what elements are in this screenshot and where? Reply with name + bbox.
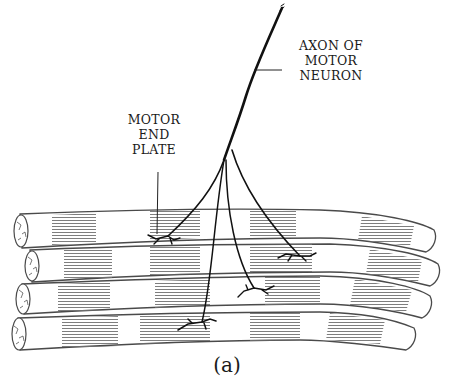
end-plate-label-line-1: MOTOR [122,112,186,127]
axon-label-line-2: MOTOR [282,53,380,68]
end-plate-label-line-3: PLATE [122,142,186,157]
axon-branch-4 [232,150,300,256]
axon-trunk [224,8,282,160]
muscle-fiber-3 [16,276,432,318]
axon-label-line-1: AXON OF [282,38,380,53]
figure-caption: (a) [205,353,249,377]
axon-label-line-3: NEURON [282,68,380,83]
end-plate-label-line-2: END [122,127,186,142]
diagram-drawing [0,0,454,389]
axon-label: AXON OF MOTOR NEURON [282,38,380,83]
neuromuscular-diagram: AXON OF MOTOR NEURON MOTOR END PLATE (a) [0,0,454,389]
muscle-fiber-4 [12,312,416,350]
end-plate-label: MOTOR END PLATE [122,112,186,157]
